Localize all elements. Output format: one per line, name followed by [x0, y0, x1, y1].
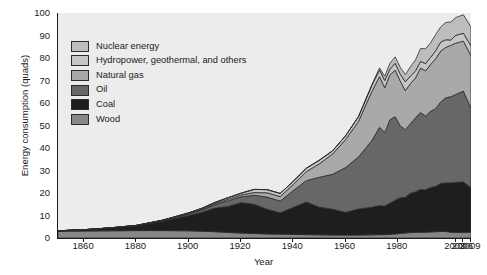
y-tick-label: 20 — [16, 188, 50, 198]
legend-label: Hydropower, geothermal, and others — [96, 56, 246, 65]
energy-consumption-chart: Energy consumption (quads) 0102030405060… — [0, 0, 487, 275]
legend-swatch-hydropower-geothermal-and-others — [71, 55, 89, 66]
y-tick-label: 0 — [16, 233, 50, 243]
legend-label: Oil — [96, 85, 107, 94]
x-axis-label: Year — [57, 256, 470, 267]
legend-item: Oil — [71, 83, 246, 98]
x-tick-label: 1940 — [272, 241, 312, 251]
x-tick-label: 1980 — [377, 241, 417, 251]
legend-swatch-coal — [71, 99, 89, 110]
legend-item: Coal — [71, 97, 246, 112]
y-tick-label: 70 — [16, 76, 50, 86]
y-tick-label: 30 — [16, 166, 50, 176]
x-tick-label: 1920 — [220, 241, 260, 251]
x-tick-label: 1960 — [325, 241, 365, 251]
legend-label: Coal — [96, 100, 115, 109]
legend-item: Natural gas — [71, 68, 246, 83]
x-tick-label: 1880 — [115, 241, 155, 251]
x-tick-label: 1860 — [63, 241, 103, 251]
legend-item: Wood — [71, 112, 246, 127]
legend-label: Wood — [96, 115, 120, 124]
x-tick-label: 1900 — [168, 241, 208, 251]
legend-item: Hydropower, geothermal, and others — [71, 54, 246, 69]
y-tick-label: 80 — [16, 53, 50, 63]
legend-swatch-oil — [71, 85, 89, 96]
y-tick-label: 90 — [16, 31, 50, 41]
y-tick-label: 60 — [16, 98, 50, 108]
chart-legend: Nuclear energyHydropower, geothermal, an… — [71, 39, 246, 127]
legend-label: Natural gas — [96, 71, 144, 80]
legend-swatch-nuclear-energy — [71, 41, 89, 52]
y-tick-label: 50 — [16, 121, 50, 131]
legend-swatch-natural-gas — [71, 70, 89, 81]
y-tick-label: 100 — [16, 8, 50, 18]
legend-swatch-wood — [71, 114, 89, 125]
y-tick-label: 40 — [16, 143, 50, 153]
legend-item: Nuclear energy — [71, 39, 246, 54]
legend-label: Nuclear energy — [96, 42, 159, 51]
y-tick-label: 10 — [16, 211, 50, 221]
x-tick-label: 2009 — [450, 241, 487, 251]
